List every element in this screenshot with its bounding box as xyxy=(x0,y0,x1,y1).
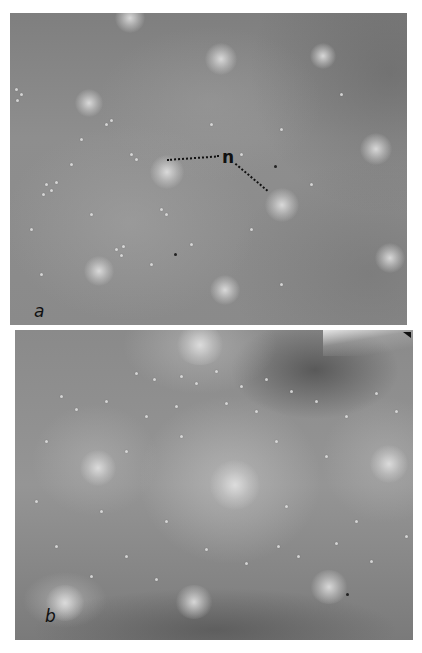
particle xyxy=(105,123,108,126)
particle xyxy=(335,542,338,545)
bright-spot xyxy=(310,570,348,604)
particle xyxy=(115,248,118,251)
particle xyxy=(405,535,408,538)
particle xyxy=(285,505,288,508)
particle xyxy=(165,520,168,523)
particle xyxy=(55,545,58,548)
particle xyxy=(125,555,128,558)
bright-spot xyxy=(75,89,103,117)
bright-spot xyxy=(175,330,225,365)
particle xyxy=(120,254,123,257)
dark-speck xyxy=(274,165,277,168)
particle xyxy=(175,405,178,408)
particle xyxy=(42,193,45,196)
particle xyxy=(45,183,48,186)
particle xyxy=(225,402,228,405)
particle xyxy=(240,153,243,156)
particle xyxy=(15,88,18,91)
micrograph-panel-b: b xyxy=(15,330,413,640)
particle xyxy=(165,213,168,216)
particle xyxy=(50,189,53,192)
particle xyxy=(277,545,280,548)
particle xyxy=(180,375,183,378)
micrograph-panel-a: n a xyxy=(10,13,407,325)
bright-spot xyxy=(310,43,336,69)
particle xyxy=(310,183,313,186)
particle xyxy=(290,390,293,393)
particle xyxy=(75,408,78,411)
particle xyxy=(325,455,328,458)
particle xyxy=(280,283,283,286)
bright-spot xyxy=(265,188,299,222)
particle xyxy=(160,208,163,211)
particle xyxy=(190,243,193,246)
particle xyxy=(60,395,63,398)
particle xyxy=(70,163,73,166)
particle xyxy=(210,123,213,126)
particle xyxy=(195,382,198,385)
panel-label-a: a xyxy=(34,303,44,320)
particle xyxy=(145,415,148,418)
particle xyxy=(16,99,19,102)
bright-spot xyxy=(84,256,114,286)
particle xyxy=(255,410,258,413)
bright-spot xyxy=(375,243,405,273)
particle xyxy=(153,378,156,381)
particle xyxy=(100,510,103,513)
dark-speck xyxy=(346,593,349,596)
particle xyxy=(297,555,300,558)
particle xyxy=(180,435,183,438)
particle xyxy=(135,372,138,375)
corner-artifact xyxy=(323,330,413,356)
particle xyxy=(135,158,138,161)
particle xyxy=(30,228,33,231)
particle xyxy=(80,138,83,141)
particle xyxy=(275,440,278,443)
particle xyxy=(215,370,218,373)
particle xyxy=(280,128,283,131)
particle xyxy=(20,93,23,96)
corner-dark-fleck xyxy=(403,332,411,338)
particle xyxy=(150,263,153,266)
particle xyxy=(110,119,113,122)
particle xyxy=(340,93,343,96)
bright-spot xyxy=(370,445,408,483)
particle xyxy=(395,410,398,413)
particle xyxy=(250,228,253,231)
particle xyxy=(90,213,93,216)
particle xyxy=(370,560,373,563)
particle xyxy=(240,385,243,388)
particle xyxy=(315,400,318,403)
particle xyxy=(355,520,358,523)
particle xyxy=(345,415,348,418)
particle xyxy=(205,548,208,551)
particle xyxy=(125,450,128,453)
particle xyxy=(90,575,93,578)
bright-spot xyxy=(80,450,116,486)
particle xyxy=(35,500,38,503)
panel-label-b: b xyxy=(45,608,56,625)
annotation-label-n: n xyxy=(222,149,234,166)
particle xyxy=(265,378,268,381)
bright-spot xyxy=(360,133,392,165)
particle xyxy=(155,578,158,581)
dark-speck xyxy=(174,253,177,256)
bright-spot xyxy=(205,43,237,75)
particle xyxy=(245,562,248,565)
particle xyxy=(45,440,48,443)
bright-spot xyxy=(175,585,213,619)
bright-spot xyxy=(210,275,240,305)
particle xyxy=(55,181,58,184)
bright-spot xyxy=(210,460,260,510)
leader-line-right xyxy=(235,163,268,192)
particle xyxy=(130,153,133,156)
particle xyxy=(122,245,125,248)
bright-spot xyxy=(115,13,145,33)
particle xyxy=(375,392,378,395)
particle xyxy=(40,273,43,276)
particle xyxy=(105,400,108,403)
